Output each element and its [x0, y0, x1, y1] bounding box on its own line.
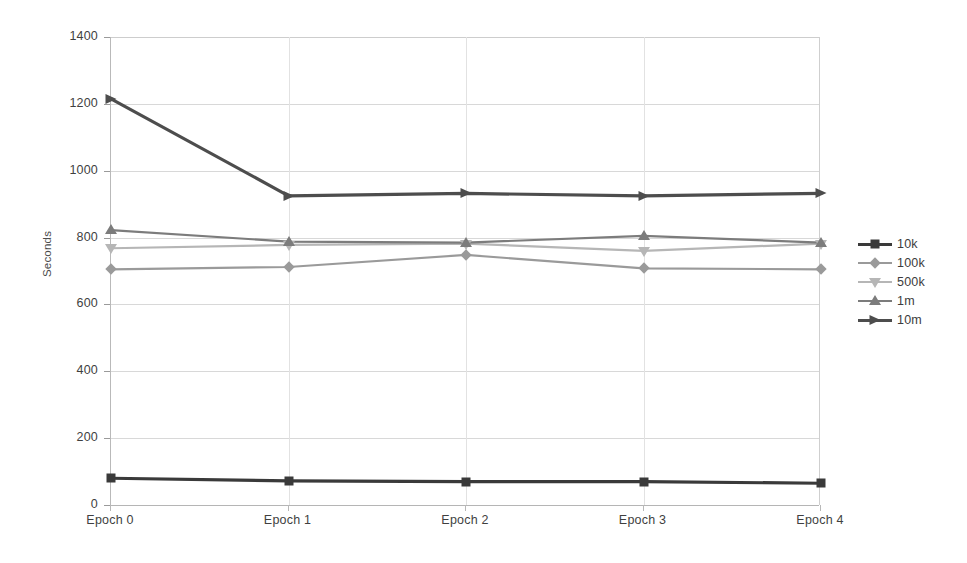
- legend-label-100k: 100k: [897, 256, 925, 270]
- y-tick-label: 600: [38, 296, 98, 310]
- data-point-1m-1: [283, 236, 295, 246]
- x-tick-label: Epoch 1: [228, 513, 348, 527]
- x-tick-label: Epoch 3: [583, 513, 703, 527]
- data-point-10k-3: [639, 477, 648, 486]
- legend-item-100k[interactable]: 100k: [858, 253, 963, 272]
- data-point-500k-3: [638, 247, 650, 257]
- y-tick-label: 1000: [38, 163, 98, 177]
- legend-item-500k[interactable]: 500k: [858, 272, 963, 291]
- legend-label-1m: 1m: [897, 294, 915, 308]
- data-point-1m-4: [815, 237, 827, 247]
- line-chart: Seconds 0200400600800100012001400 Epoch …: [0, 0, 967, 563]
- x-tick-mark: [288, 505, 289, 511]
- data-point-10m-4: [816, 188, 827, 198]
- data-point-10m-0: [106, 94, 117, 104]
- data-point-10k-1: [284, 476, 293, 485]
- legend-item-1m[interactable]: 1m: [858, 291, 963, 310]
- data-point-1m-3: [638, 230, 650, 240]
- data-point-10m-2: [461, 188, 472, 198]
- y-tick-label: 400: [38, 363, 98, 377]
- y-tick-label: 800: [38, 230, 98, 244]
- chart-legend: 10k100k500k1m10m: [858, 234, 963, 329]
- legend-swatch-500k: [858, 275, 892, 289]
- data-point-10k-0: [107, 474, 116, 483]
- legend-marker-triangle-down-icon: [869, 278, 881, 288]
- legend-swatch-10m: [858, 313, 892, 327]
- legend-marker-triangle-right-icon: [870, 315, 881, 325]
- plot-area: [110, 37, 820, 505]
- legend-item-10m[interactable]: 10m: [858, 310, 963, 329]
- data-point-1m-2: [460, 237, 472, 247]
- data-point-10k-4: [817, 479, 826, 488]
- y-tick-label: 1400: [38, 29, 98, 43]
- legend-label-10m: 10m: [897, 313, 922, 327]
- x-tick-label: Epoch 4: [760, 513, 880, 527]
- legend-swatch-1m: [858, 294, 892, 308]
- legend-swatch-100k: [858, 256, 892, 270]
- x-tick-mark: [643, 505, 644, 511]
- y-tick-label: 0: [38, 497, 98, 511]
- y-tick-label: 200: [38, 430, 98, 444]
- x-tick-mark: [465, 505, 466, 511]
- y-tick-label: 1200: [38, 96, 98, 110]
- legend-swatch-10k: [858, 237, 892, 251]
- data-point-10m-3: [638, 191, 649, 201]
- x-tick-label: Epoch 2: [405, 513, 525, 527]
- x-tick-label: Epoch 0: [50, 513, 170, 527]
- data-point-10k-2: [462, 477, 471, 486]
- data-point-10m-1: [283, 191, 294, 201]
- legend-label-500k: 500k: [897, 275, 925, 289]
- legend-marker-triangle-up-icon: [869, 295, 881, 305]
- series-lines: [111, 37, 821, 505]
- legend-item-10k[interactable]: 10k: [858, 234, 963, 253]
- x-tick-mark: [820, 505, 821, 511]
- legend-marker-square-icon: [871, 239, 880, 248]
- legend-label-10k: 10k: [897, 237, 918, 251]
- data-point-1m-0: [105, 224, 117, 234]
- y-axis-title: Seconds: [41, 199, 53, 309]
- legend-marker-diamond-icon: [869, 257, 880, 268]
- x-tick-mark: [110, 505, 111, 511]
- data-point-500k-0: [105, 244, 117, 254]
- series-line-10m: [111, 99, 821, 196]
